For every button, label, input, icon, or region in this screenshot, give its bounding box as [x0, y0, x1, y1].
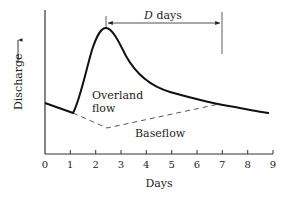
x-tick-label: 4 [143, 159, 149, 170]
x-tick-label: 5 [169, 159, 175, 170]
overland-flow-label-line1: Overland [92, 89, 143, 102]
y-axis-label: Discharge [12, 53, 25, 110]
x-axis-label: Days [145, 177, 173, 190]
hydrograph-curve [45, 28, 269, 113]
x-tick-label: 6 [194, 159, 200, 170]
x-tick-label: 0 [42, 159, 48, 170]
x-tick-label: 8 [245, 159, 251, 170]
overland-flow-label-line2: flow [92, 102, 116, 115]
x-tick-label: 3 [118, 159, 124, 170]
x-tick-label: 2 [93, 159, 99, 170]
hydrograph-diagram: 0 1 2 3 4 5 6 7 8 9 Days Discharge D day… [0, 0, 293, 197]
x-tick-label: 9 [270, 159, 276, 170]
baseflow-label: Baseflow [135, 127, 186, 140]
d-days-label: D days [143, 9, 182, 22]
x-tick-label: 1 [67, 159, 73, 170]
x-tick-label: 7 [219, 159, 225, 170]
